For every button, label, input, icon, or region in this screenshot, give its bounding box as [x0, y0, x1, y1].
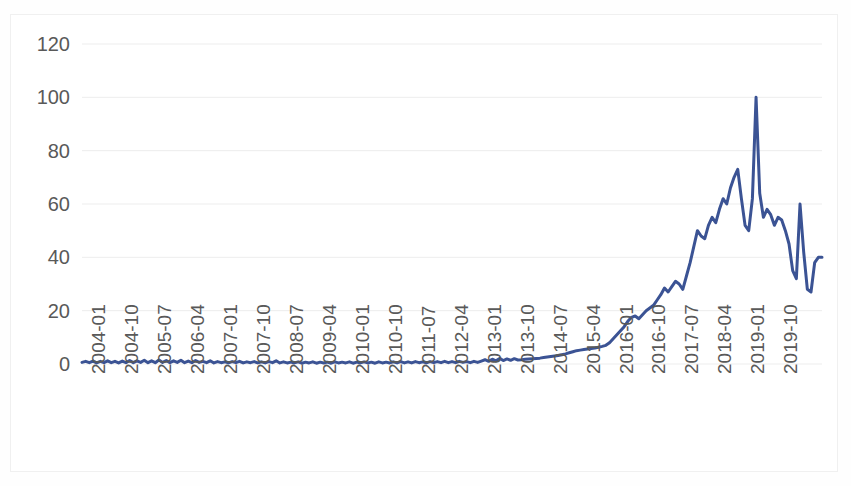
x-axis-tick-label: 2010-01 [353, 304, 372, 374]
x-axis-tick-label: 2007-01 [221, 304, 240, 374]
x-axis-tick-label: 2013-01 [485, 304, 504, 374]
x-axis-tick-label: 2009-04 [320, 304, 339, 374]
x-axis-tick-label: 2004-10 [122, 304, 141, 374]
x-axis-tick-label: 2016-10 [649, 304, 668, 374]
x-axis-tick-label: 2019-10 [781, 304, 800, 374]
x-axis-tick-label: 2006-04 [188, 304, 207, 374]
x-axis-tick-label: 2011-07 [419, 306, 438, 374]
x-axis-tick-label: 2015-04 [584, 304, 603, 374]
x-axis-tick-label: 2014-07 [551, 304, 570, 374]
x-axis-tick-label: 2013-10 [518, 304, 537, 374]
chart-container: 120100806040200 2004-012004-102005-07200… [0, 0, 851, 486]
x-axis-tick-label: 2012-04 [452, 304, 471, 374]
x-axis-tick-label: 2018-04 [715, 304, 734, 374]
x-axis-tick-label: 2016-01 [617, 304, 636, 374]
x-axis-tick-labels: 2004-012004-102005-072006-042007-012007-… [0, 0, 851, 486]
x-axis-tick-label: 2017-07 [682, 304, 701, 374]
x-axis-tick-label: 2005-07 [155, 304, 174, 374]
x-axis-tick-label: 2004-01 [89, 304, 108, 374]
x-axis-tick-label: 2010-10 [386, 304, 405, 374]
x-axis-tick-label: 2008-07 [287, 304, 306, 374]
x-axis-tick-label: 2019-01 [748, 304, 767, 374]
x-axis-tick-label: 2007-10 [254, 304, 273, 374]
